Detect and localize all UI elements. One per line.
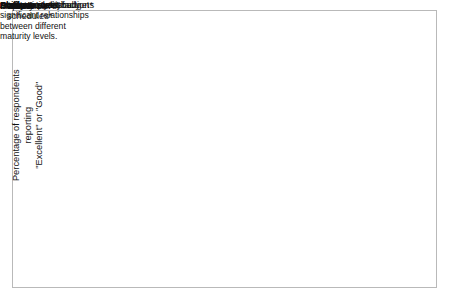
y-axis-label: Percentage of respondents reporting "Exc… (11, 50, 46, 200)
chart-plot-area (0, 0, 451, 301)
footnote-line-1: * Indicate statistically (0, 0, 125, 10)
chart-figure: Percentage of respondents reporting "Exc… (0, 0, 451, 301)
footnote-line-3: between different (0, 21, 125, 31)
footnote-text: * Indicate statistically significant rel… (0, 0, 125, 41)
footnote-line-4: maturity levels. (0, 31, 125, 41)
y-axis-label-line2: "Excellent" or "Good" (34, 82, 44, 169)
footnote-line-2: significant relationships (0, 10, 125, 20)
y-axis-label-line1: Percentage of respondents reporting (11, 69, 33, 181)
